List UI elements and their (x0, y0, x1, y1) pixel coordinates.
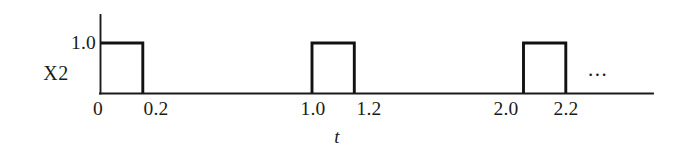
x-tick-label-1-0: 1.0 (301, 99, 326, 119)
waveform-figure: X2 1.0 0 0.2 1.0 1.2 2.0 2.2 ... t (0, 0, 683, 153)
x-tick-label-2-0: 2.0 (494, 99, 519, 119)
x-axis-title: t (334, 127, 339, 146)
pulse-train-path (101, 43, 566, 93)
waveform-plot (0, 0, 683, 153)
series-label: X2 (43, 63, 69, 83)
continuation-ellipsis: ... (588, 59, 608, 80)
y-tick-label-1: 1.0 (71, 33, 96, 53)
x-tick-label-0-2: 0.2 (144, 99, 169, 119)
x-tick-label-2-2: 2.2 (554, 99, 579, 119)
x-tick-label-1-2: 1.2 (357, 99, 382, 119)
x-tick-label-0: 0 (93, 99, 103, 119)
